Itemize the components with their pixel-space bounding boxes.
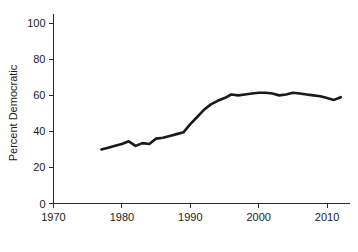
y-tick-group: 020406080100 bbox=[27, 17, 53, 209]
y-tick-label: 80 bbox=[33, 53, 45, 65]
y-tick-label: 20 bbox=[33, 161, 45, 173]
x-tick-label: 1970 bbox=[41, 211, 65, 223]
chart-plot-area: 020406080100 19701980199020002010 Percen… bbox=[0, 0, 358, 252]
axes-group bbox=[54, 14, 351, 204]
x-tick-label: 2000 bbox=[246, 211, 270, 223]
x-tick-label: 1980 bbox=[110, 211, 134, 223]
x-tick-group: 19701980199020002010 bbox=[41, 204, 339, 223]
y-tick-label: 100 bbox=[27, 17, 45, 29]
x-tick-label: 2010 bbox=[315, 211, 339, 223]
y-tick-label: 0 bbox=[39, 198, 45, 210]
series-line-0 bbox=[101, 93, 340, 150]
x-tick-label: 1990 bbox=[178, 211, 202, 223]
series-group bbox=[101, 93, 340, 150]
y-tick-label: 40 bbox=[33, 125, 45, 137]
y-axis-title: Percent Democratic bbox=[7, 64, 19, 161]
y-tick-label: 60 bbox=[33, 89, 45, 101]
chart-figure: 020406080100 19701980199020002010 Percen… bbox=[0, 0, 358, 252]
